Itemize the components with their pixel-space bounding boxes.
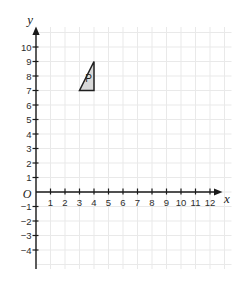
y-tick-label: 8 [26, 71, 31, 82]
y-tick-label: 2 [26, 158, 31, 169]
coordinate-grid-svg: 12345678910111210987654321−1−2−3−4yxOP [0, 0, 238, 292]
y-tick-label: −4 [21, 245, 32, 256]
x-tick-label: 7 [135, 197, 140, 208]
x-tick-label: 2 [62, 197, 67, 208]
x-tick-label: 6 [120, 197, 125, 208]
origin-label: O [23, 187, 32, 201]
x-tick-label: 5 [106, 197, 111, 208]
x-axis-arrow-icon [214, 188, 223, 195]
y-tick-label: 1 [26, 172, 31, 183]
y-tick-label: −1 [21, 201, 32, 212]
x-tick-label: 1 [48, 197, 53, 208]
x-tick-label: 9 [164, 197, 169, 208]
y-tick-label: −3 [21, 230, 32, 241]
y-tick-label: 6 [26, 100, 31, 111]
y-tick-label: 5 [26, 114, 31, 125]
x-tick-label: 8 [149, 197, 154, 208]
y-tick-label: 9 [26, 56, 31, 67]
y-axis-arrow-icon [32, 27, 39, 36]
x-tick-label: 11 [191, 197, 201, 208]
x-tick-label: 10 [176, 197, 187, 208]
x-tick-label: 4 [91, 197, 96, 208]
coordinate-plane-figure: 12345678910111210987654321−1−2−3−4yxOP [0, 0, 238, 292]
x-tick-label: 12 [205, 197, 216, 208]
y-tick-label: 4 [26, 129, 31, 140]
y-tick-label: −2 [21, 216, 32, 227]
x-tick-label: 3 [77, 197, 82, 208]
y-tick-label: 10 [21, 42, 32, 53]
y-axis-label: y [25, 12, 33, 27]
triangle-P-label: P [85, 73, 92, 84]
y-tick-label: 3 [26, 143, 31, 154]
y-tick-label: 7 [26, 85, 31, 96]
x-axis-label: x [223, 191, 230, 206]
